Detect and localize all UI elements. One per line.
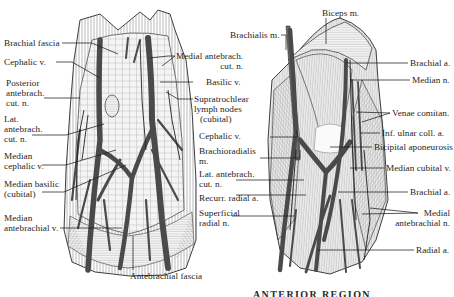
label-cephalic-v-left: Cephalic v. <box>4 57 46 67</box>
right-panel-drawing <box>268 18 388 274</box>
figure-caption-partial: ANTERIOR REGION <box>253 289 371 297</box>
label-line: antebrachial v. <box>4 223 58 233</box>
label-superficial-radial-n: Superficial radial n. <box>199 208 240 228</box>
left-panel-drawing <box>64 10 196 276</box>
label-median-n: Median n. <box>412 75 450 85</box>
label-line: lymph nodes <box>194 104 249 114</box>
label-line: radial n. <box>199 218 240 228</box>
label-line: (cubital) <box>194 114 249 124</box>
label-line: cut. n. <box>4 134 43 144</box>
label-line: Superficial <box>199 208 240 218</box>
label-line: Median <box>4 213 58 223</box>
label-line: Supratrochlear <box>194 94 249 104</box>
label-line: antebrachial n. <box>394 218 450 228</box>
label-line: Lat. <box>4 114 43 124</box>
label-line: Median <box>4 151 44 161</box>
label-line: Posterior <box>6 78 45 88</box>
label-line: cut. n. <box>199 179 255 189</box>
label-brachial-a-bottom: Brachial a. <box>410 187 450 197</box>
label-brachial-a-top: Brachial a. <box>410 58 450 68</box>
label-medial-antebrachial-n: Medial antebrachial n. <box>394 208 450 228</box>
label-antebrachial-fascia: Antebrachial fascia <box>130 271 202 281</box>
label-bicipital-aponeurosis: Bicipital aponeurosis <box>374 142 453 152</box>
label-median-basilic: Median basilic (cubital) <box>4 179 59 199</box>
label-median-cubital-v: Median cubital v. <box>386 163 451 173</box>
label-radial-a: Radial a. <box>416 245 449 255</box>
label-line: antebrach. <box>6 88 45 98</box>
label-line: (cubital) <box>4 189 59 199</box>
label-line: antebrach. <box>4 124 43 134</box>
anatomy-figure: Brachial fascia Cephalic v. Posterior an… <box>0 0 454 297</box>
label-medial-antebrach-cut-n: Medial antebrach. cut. n. <box>176 51 243 71</box>
label-brachialis-m: Brachialis m. <box>230 30 280 40</box>
label-biceps-m: Biceps m. <box>322 8 359 18</box>
label-line: cut. n. <box>6 98 45 108</box>
label-line: cut. n. <box>176 61 243 71</box>
label-median-antebrachial-v: Median antebrachial v. <box>4 213 58 233</box>
label-line: Median basilic <box>4 179 59 189</box>
label-venae-comitan: Venae comitan. <box>392 108 449 118</box>
label-line: cephalic v. <box>4 161 44 171</box>
label-recurr-radial-a: Recurr. radial a. <box>199 193 259 203</box>
label-line: m. <box>199 156 256 166</box>
label-line: Medial antebrach. <box>176 51 243 61</box>
label-line: Medial <box>394 208 450 218</box>
label-median-cephalic-v: Median cephalic v. <box>4 151 44 171</box>
label-line: Brachioradialis <box>199 146 256 156</box>
label-lat-antebrach-cut-n-left: Lat. antebrach. cut. n. <box>4 114 43 145</box>
label-inf-ulnar-coll-a: Inf. ulnar coll. a. <box>382 128 444 138</box>
label-basilic-v: Basilic v. <box>206 77 241 87</box>
label-cephalic-v-right: Cephalic v. <box>199 131 241 141</box>
label-supratrochlear-lymph-nodes: Supratrochlear lymph nodes (cubital) <box>194 94 249 125</box>
label-posterior-antebrach-cut-n: Posterior antebrach. cut. n. <box>6 78 45 109</box>
label-line: Lat. antebrach. <box>199 169 255 179</box>
label-brachioradialis-m: Brachioradialis m. <box>199 146 256 166</box>
label-brachial-fascia: Brachial fascia <box>4 38 60 48</box>
label-lat-antebrach-cut-n-right: Lat. antebrach. cut. n. <box>199 169 255 189</box>
